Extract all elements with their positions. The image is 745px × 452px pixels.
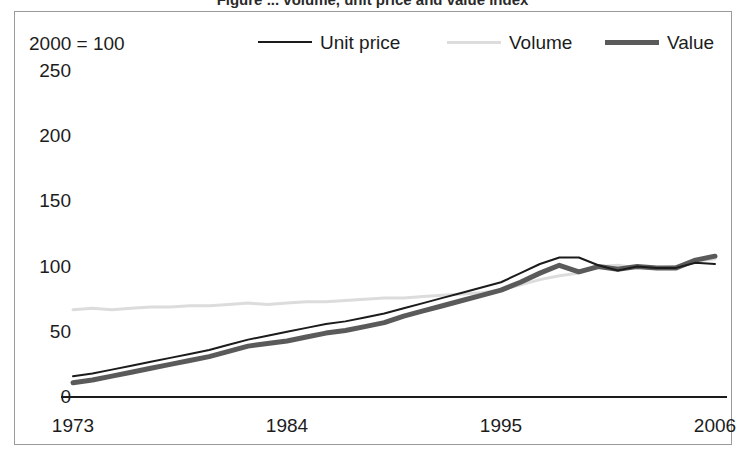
plot-svg bbox=[15, 12, 733, 446]
y-tick-label-150: 150 bbox=[15, 191, 71, 210]
plot-area: 050100150200250 1973198419952006 bbox=[15, 12, 733, 446]
y-tick-label-50: 50 bbox=[15, 322, 71, 341]
x-tick-label-1995: 1995 bbox=[480, 416, 522, 435]
x-tick-label-2006: 2006 bbox=[694, 416, 736, 435]
chart-frame: 2000 = 100 Unit price Volume Value 05010… bbox=[14, 11, 732, 445]
series-line-volume bbox=[73, 259, 715, 310]
y-tick-label-200: 200 bbox=[15, 126, 71, 145]
y-tick-label-250: 250 bbox=[15, 61, 71, 80]
y-tick-label-100: 100 bbox=[15, 257, 71, 276]
x-tick-label-1984: 1984 bbox=[266, 416, 308, 435]
clipped-figure-title: Figure ... volume, unit price and value … bbox=[0, 0, 745, 9]
series-line-value bbox=[73, 256, 715, 382]
x-tick-label-1973: 1973 bbox=[52, 416, 94, 435]
y-tick-label-0: 0 bbox=[15, 387, 71, 406]
